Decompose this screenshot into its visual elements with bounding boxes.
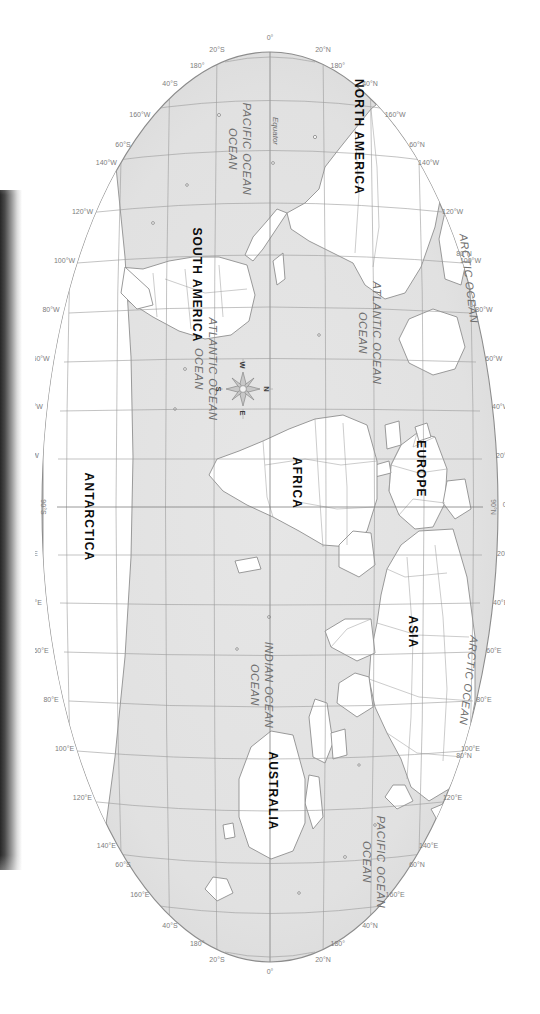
longitude-tick-100E: 100°E xyxy=(461,745,480,752)
longitude-tick-b-120E: 120°E xyxy=(73,794,92,801)
pole-label-north: 90°N xyxy=(490,499,497,515)
land-alaska xyxy=(411,61,443,117)
longitude-tick-120W: 120°W xyxy=(442,208,463,215)
book-spine-shadow xyxy=(0,190,22,870)
island-dot xyxy=(313,135,316,138)
longitude-tick-140W: 140°W xyxy=(418,159,439,166)
longitude-tick-80W: 80°W xyxy=(475,306,493,313)
latitude-tick-l-40N: 40°N xyxy=(362,80,378,87)
latitude-tick-r-60S: 60°S xyxy=(115,861,131,868)
latitude-tick-l-60S: 60°S xyxy=(115,141,131,148)
ocean-label-atlantic-north-l2: OCEAN xyxy=(357,312,369,354)
longitude-tick-b-140W: 140°W xyxy=(96,159,117,166)
longitude-tick-140E: 140°E xyxy=(419,843,438,850)
latitude-tick-l-40S: 40°S xyxy=(162,80,178,87)
latitude-tick-l-0: 0° xyxy=(267,34,274,41)
longitude-tick-160E: 160°E xyxy=(386,891,405,898)
map-page: ARCTIC OCEAN ARCTIC OCEAN PACIFIC OCEAN … xyxy=(0,0,540,1014)
compass-label-north: N xyxy=(262,386,271,391)
longitude-tick-b-40W: 40°W xyxy=(35,403,43,410)
latitude-tick-l-20N: 20°N xyxy=(315,46,331,53)
land-borneo xyxy=(331,729,347,759)
latitude-tick-l-60N: 60°N xyxy=(409,141,425,148)
longitude-tick-b-180: 180° xyxy=(190,62,205,69)
ocean-label-pacific-west-l2: OCEAN xyxy=(361,841,373,883)
longitude-tick-80E: 80°E xyxy=(476,696,492,703)
latitude-tick-r-40S: 40°S xyxy=(162,922,178,929)
longitude-tick-b-20W: 20°W xyxy=(35,452,39,459)
island-dot xyxy=(298,892,301,895)
longitude-tick-b-20E: 20°E xyxy=(35,550,38,557)
land-iberia xyxy=(385,421,401,449)
longitude-tick-40W: 40°W xyxy=(492,403,505,410)
spine-fade-top xyxy=(0,150,22,195)
ocean-label-atlantic-north: ATLANTIC OCEAN xyxy=(371,281,383,385)
island-dot xyxy=(218,114,221,117)
longitude-tick-b-100W: 100°W xyxy=(54,257,75,264)
longitude-tick-b-180: 180° xyxy=(190,940,205,947)
continent-label-north-america: NORTH AMERICA xyxy=(352,79,366,195)
longitude-tick-20E: 20°E xyxy=(497,550,505,557)
longitude-tick-120E: 120°E xyxy=(443,794,462,801)
latitude-tick-l-20S: 20°S xyxy=(209,46,225,53)
latitude-tick-r-20N: 20°N xyxy=(315,956,331,963)
compass-label-south: S xyxy=(214,386,223,391)
spine-fade-bottom xyxy=(0,855,22,905)
compass-label-east: E xyxy=(238,410,247,415)
longitude-tick-b-100E: 100°E xyxy=(55,745,74,752)
land-tasmania xyxy=(223,823,235,839)
island-dot xyxy=(184,368,187,371)
ocean-label-indian: INDIAN OCEAN xyxy=(263,642,275,729)
island-dot xyxy=(318,334,321,337)
longitude-tick-b-160E: 160°E xyxy=(130,891,149,898)
island-dot xyxy=(152,222,155,225)
latitude-tick-r-60N: 60°N xyxy=(409,861,425,868)
island-dot xyxy=(236,648,239,651)
latitude-tick-r-40N: 40°N xyxy=(362,922,378,929)
longitude-tick-b-80E: 80°E xyxy=(43,696,59,703)
longitude-tick-180: 180° xyxy=(331,62,346,69)
continent-label-australia: AUSTRALIA xyxy=(266,751,280,830)
equator-label: Equator xyxy=(271,117,280,145)
longitude-tick-60W: 60°W xyxy=(485,355,503,362)
ocean-label-pacific-east-l2: OCEAN xyxy=(227,128,239,170)
pole-label-south: 90°S xyxy=(40,499,47,515)
longitude-tick-b-60W: 60°W xyxy=(35,355,50,362)
continent-label-europe: EUROPE xyxy=(414,440,428,497)
compass-label-west: W xyxy=(238,361,247,369)
latitude-tick-r-20S: 20°S xyxy=(209,956,225,963)
island-dot xyxy=(358,764,360,766)
island-dot xyxy=(174,408,177,411)
ocean-label-atlantic-south-l2: OCEAN xyxy=(193,348,205,390)
continent-label-south-america: SOUTH AMERICA xyxy=(190,227,204,342)
latitude-tick-l-80N: 80°N xyxy=(456,250,472,257)
longitude-tick-60E: 60°E xyxy=(486,647,502,654)
continent-label-antarctica: ANTARCTICA xyxy=(82,473,96,562)
longitude-tick-180: 180° xyxy=(331,940,346,947)
longitude-tick-b-120W: 120°W xyxy=(72,208,93,215)
world-map-svg: ARCTIC OCEAN ARCTIC OCEAN PACIFIC OCEAN … xyxy=(35,17,505,997)
latitude-tick-r-80N: 80°N xyxy=(456,752,472,759)
longitude-tick-b-60E: 60°E xyxy=(35,647,49,654)
longitude-tick-b-80W: 80°W xyxy=(42,306,60,313)
world-map-canvas: ARCTIC OCEAN ARCTIC OCEAN PACIFIC OCEAN … xyxy=(35,17,505,997)
ocean-label-indian-l2: OCEAN xyxy=(249,664,261,706)
continent-label-asia: ASIA xyxy=(406,615,420,648)
longitude-tick-0: 0° xyxy=(503,501,505,508)
longitude-tick-b-140E: 140°E xyxy=(97,843,116,850)
island-dot xyxy=(272,162,275,165)
latitude-tick-r-0: 0° xyxy=(267,968,274,975)
continent-label-africa: AFRICA xyxy=(290,457,304,509)
island-dot xyxy=(344,856,347,859)
island-dot xyxy=(186,184,189,187)
longitude-tick-40E: 40°E xyxy=(493,599,505,606)
longitude-tick-b-160W: 160°W xyxy=(129,111,150,118)
longitude-tick-160W: 160°W xyxy=(385,111,406,118)
ocean-label-atlantic-south: ATLANTIC OCEAN xyxy=(207,317,219,421)
longitude-tick-100W: 100°W xyxy=(460,257,481,264)
ocean-label-pacific-east: PACIFIC OCEAN xyxy=(241,103,253,196)
longitude-tick-b-40E: 40°E xyxy=(35,599,42,606)
longitude-tick-20W: 20°W xyxy=(496,452,505,459)
